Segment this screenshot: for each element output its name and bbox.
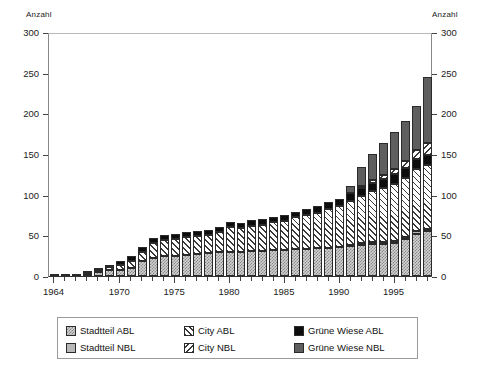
bar-segment-1981-stadtteil-abl [237,252,246,276]
x-tick-label-1995: 1995 [374,286,414,297]
bar-segment-1984-grune-wiese-abl [269,217,278,223]
bar-segment-1971-grune-wiese-abl [127,256,136,260]
y-tick-mark-left-200 [43,114,48,115]
bar-segment-1993-grune-wiese-nbl [368,154,377,180]
bar-segment-1968-stadtteil-abl [94,272,103,276]
bar-segment-1970-grune-wiese-abl [116,261,125,264]
bar-segment-1987-grune-wiese-abl [302,209,311,216]
x-tick-mark-1979 [218,277,219,281]
bar-segment-1998-city-nbl [423,143,432,154]
bar-segment-1966-stadtteil-abl [72,274,81,276]
bar-segment-1965-stadtteil-abl [61,274,70,276]
bar-segment-1978-city-abl [204,235,213,254]
bar-segment-1972-city-abl [138,252,147,262]
y-axis-right-title: Anzahl [432,10,458,19]
bar-1974 [160,32,169,276]
bar-1972 [138,32,147,276]
bar-segment-1996-stadtteil-nbl [401,237,410,239]
bar-1989 [324,32,333,276]
bar-segment-1990-stadtteil-abl [335,247,344,276]
bar-segment-1980-city-abl [226,227,235,251]
x-tick-mark-1995 [394,277,395,283]
bar-segment-1971-city-abl [127,261,136,268]
bar-segment-1990-grune-wiese-abl [335,199,344,206]
bar-segment-1974-grune-wiese-abl [160,235,169,240]
bar-segment-1971-stadtteil-abl [127,268,136,276]
y-tick-mark-right-200 [432,114,437,115]
bar-1993 [368,32,377,276]
y-tick-mark-left-300 [43,33,48,34]
bar-segment-1994-city-abl [379,188,388,242]
bar-segment-1981-city-abl [237,228,246,252]
bar-segment-1978-grune-wiese-abl [204,230,213,235]
bar-segment-1984-city-abl [269,222,278,250]
y-tick-label-right-100: 100 [441,190,471,201]
bar-segment-1997-grune-wiese-abl [412,159,421,170]
bar-segment-1995-stadtteil-abl [390,243,399,276]
bar-1996 [401,32,410,276]
y-tick-label-right-200: 200 [441,108,471,119]
bar-segment-1975-city-abl [171,239,180,256]
bar-segment-1983-grune-wiese-abl [258,219,267,225]
bar-segment-1991-city-abl [346,201,355,245]
y-tick-label-left-250: 250 [9,68,39,79]
bar-1971 [127,32,136,276]
bar-segment-1997-city-nbl [412,150,421,159]
y-tick-mark-right-100 [432,196,437,197]
y-tick-label-right-50: 50 [441,230,471,241]
bar-1965 [61,32,70,276]
bar-segment-1996-grune-wiese-abl [401,168,410,179]
y-tick-label-left-0: 0 [9,271,39,282]
bar-segment-1986-grune-wiese-abl [291,212,300,218]
bar-1964 [50,32,59,276]
legend-label-stadtteil-abl: Stadtteil ABL [80,325,134,336]
bar-segment-1991-stadtteil-abl [346,246,355,276]
y-tick-mark-right-300 [432,33,437,34]
y-tick-mark-left-50 [43,236,48,237]
x-tick-mark-1982 [251,277,252,281]
chart-root: Anzahl Anzahl 00505010010015015020020025… [0,0,477,374]
bar-segment-1988-stadtteil-abl [313,248,322,276]
bar-segment-1973-grune-wiese-abl [149,238,158,243]
bar-segment-1992-stadtteil-abl [357,245,366,276]
bar-segment-1998-grune-wiese-abl [423,155,432,166]
legend-swatch-stadtteil-abl [66,326,76,336]
x-tick-mark-1969 [108,277,109,281]
bar-1982 [247,32,256,276]
legend-item-city-abl: City ABL [184,325,294,336]
bar-1992 [357,32,366,276]
bar-segment-1989-city-abl [324,209,333,247]
y-axis-left-title: Anzahl [26,10,52,19]
x-tick-mark-1994 [383,277,384,281]
bar-1986 [291,32,300,276]
x-tick-label-1975: 1975 [154,286,194,297]
x-tick-mark-1977 [196,277,197,281]
y-tick-mark-left-0 [43,277,48,278]
bar-segment-1993-stadtteil-abl [368,244,377,276]
bar-segment-1969-grune-wiese-abl [105,265,114,267]
bar-segment-1982-grune-wiese-abl [247,220,256,226]
legend-row-2: Stadtteil NBLCity NBLGrüne Wiese NBL [66,339,414,356]
bar-segment-1995-city-nbl [390,169,399,175]
bar-segment-1994-grune-wiese-abl [379,179,388,188]
bar-segment-1980-grune-wiese-abl [226,222,235,227]
x-tick-mark-1971 [130,277,131,281]
plot-area [48,33,432,277]
bar-segment-1997-stadtteil-nbl [412,231,421,233]
x-tick-mark-1973 [152,277,153,281]
bar-segment-1979-grune-wiese-abl [215,227,224,232]
y-tick-label-left-100: 100 [9,190,39,201]
bar-1980 [226,32,235,276]
x-tick-mark-1976 [185,277,186,281]
bar-1969 [105,32,114,276]
y-tick-mark-right-150 [432,155,437,156]
y-tick-mark-left-250 [43,74,48,75]
bar-segment-1994-grune-wiese-nbl [379,143,388,176]
x-tick-mark-1996 [405,277,406,281]
bar-segment-1975-grune-wiese-abl [171,234,180,239]
bar-segment-1993-stadtteil-nbl [368,242,377,244]
legend-item-stadtteil-nbl: Stadtteil NBL [66,342,184,353]
bar-1988 [313,32,322,276]
x-tick-mark-1966 [75,277,76,281]
bar-segment-1967-grune-wiese-abl [83,271,92,273]
